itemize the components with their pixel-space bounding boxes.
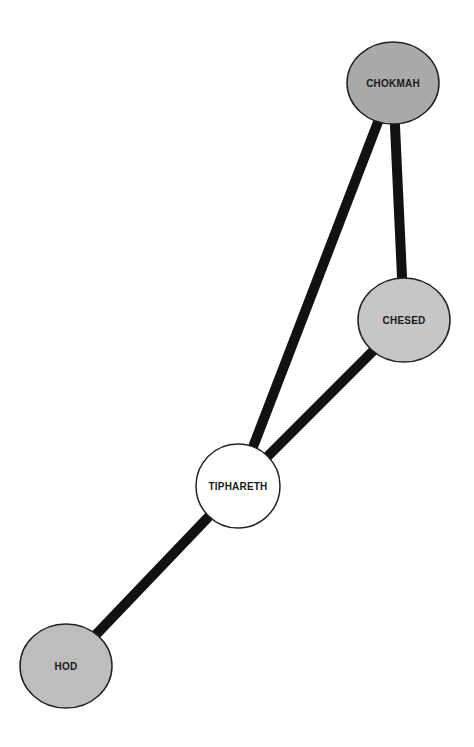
edge-chokmah-tiphareth bbox=[238, 83, 393, 486]
node-label: CHOKMAH bbox=[366, 78, 420, 89]
node-hod[interactable]: HOD bbox=[20, 624, 112, 708]
edges-layer bbox=[66, 83, 404, 666]
node-tiphareth[interactable]: TIPHARETH bbox=[196, 444, 280, 528]
network-graph: CHOKMAHCHESEDTIPHARETHHOD bbox=[0, 0, 474, 747]
node-label: CHESED bbox=[383, 315, 426, 326]
node-label: HOD bbox=[55, 661, 78, 672]
node-chesed[interactable]: CHESED bbox=[358, 278, 450, 362]
node-label: TIPHARETH bbox=[208, 481, 267, 492]
nodes-layer: CHOKMAHCHESEDTIPHARETHHOD bbox=[20, 42, 450, 708]
node-chokmah[interactable]: CHOKMAH bbox=[347, 42, 439, 124]
